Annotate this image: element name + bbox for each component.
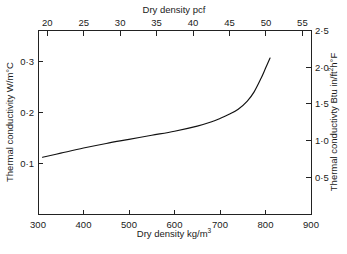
y-tick-label-right: 0·5 <box>315 172 329 183</box>
x-tick-label-top: 20 <box>42 17 53 28</box>
data-curve-thermal-conductivity <box>43 58 270 157</box>
y-axis-left-ticks <box>38 61 43 163</box>
y-axis-right-title-pre: Thermal conductivty Btu in/ft <box>328 71 339 191</box>
x-tick-label-bottom: 500 <box>121 219 137 230</box>
chart-canvas: 300400500600700800900 2025303540455055 0… <box>0 0 347 254</box>
y-axis-right-title: Thermal conductivty Btu in/ft2h°F <box>327 53 339 192</box>
thermal-conductivity-chart: 300400500600700800900 2025303540455055 0… <box>0 0 347 254</box>
x-tick-label-top: 35 <box>151 17 162 28</box>
y-axis-left-labels: 0·10·20·3 <box>20 56 34 169</box>
y-tick-label-left: 0·3 <box>20 56 34 67</box>
y-axis-left-title: Thermal conductivity W/m°C <box>4 62 15 182</box>
x-tick-label-top: 50 <box>261 17 272 28</box>
x-tick-label-top: 55 <box>297 17 308 28</box>
x-tick-label-bottom: 700 <box>212 219 228 230</box>
y-axis-right-labels: 0·51·01·52·02·5 <box>315 25 329 183</box>
x-axis-top-title: Dry density pcf <box>143 4 206 15</box>
x-tick-label-bottom: 300 <box>30 219 46 230</box>
y-tick-label-right: 1·5 <box>315 98 329 109</box>
x-axis-bottom-title: Dry density kg/m3 <box>137 227 212 239</box>
x-tick-label-bottom: 900 <box>303 219 319 230</box>
x-axis-top-ticks <box>47 31 302 36</box>
y-tick-label-left: 0·2 <box>20 107 34 118</box>
y-axis-right-title-post: h°F <box>328 53 339 68</box>
x-axis-bottom-ticks <box>84 210 266 215</box>
x-tick-label-top: 30 <box>115 17 126 28</box>
x-tick-label-top: 40 <box>188 17 199 28</box>
x-tick-label-top: 45 <box>224 17 235 28</box>
y-tick-label-right: 2·5 <box>315 25 329 36</box>
x-axis-bottom-title-superscript: 3 <box>208 227 212 234</box>
y-tick-label-left: 0·1 <box>20 158 34 169</box>
x-tick-label-bottom: 400 <box>76 219 92 230</box>
x-axis-bottom-title-main: Dry density kg/m <box>137 228 208 239</box>
x-tick-label-bottom: 800 <box>258 219 274 230</box>
x-axis-top-labels: 2025303540455055 <box>42 17 308 28</box>
x-tick-label-top: 25 <box>78 17 89 28</box>
y-axis-right-ticks <box>306 30 311 177</box>
y-tick-label-right: 1·0 <box>315 135 329 146</box>
